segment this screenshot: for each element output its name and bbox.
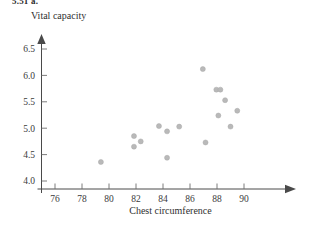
x-tick-label: 86 — [185, 194, 195, 204]
scatter-plot-figure: 5.51 a. Vital capacity 7678808284868890 … — [0, 0, 309, 226]
data-point — [235, 108, 240, 113]
plot-area: 7678808284868890 4.04.55.05.56.06.5 — [0, 0, 309, 226]
y-axis-arrowhead — [37, 34, 45, 44]
y-tick-label: 5.5 — [23, 97, 35, 107]
data-point — [218, 87, 223, 92]
y-tick-label: 4.5 — [23, 150, 35, 160]
data-point — [156, 124, 161, 129]
data-point — [228, 124, 233, 129]
data-point — [131, 134, 136, 139]
y-tick-label: 6.5 — [23, 44, 35, 54]
x-tick-label: 82 — [131, 194, 141, 204]
data-point — [138, 139, 143, 144]
y-tick-label: 6.0 — [23, 71, 35, 81]
y-tick-label: 4.0 — [23, 176, 35, 186]
data-point — [98, 159, 103, 164]
y-tick-group: 4.04.55.05.56.06.5 — [23, 44, 47, 186]
x-axis-title: Chest circumference — [129, 205, 211, 216]
x-tick-label: 90 — [239, 194, 249, 204]
x-axis-arrowhead — [285, 185, 296, 193]
x-tick-group: 7678808284868890 — [50, 184, 249, 204]
data-point — [165, 155, 170, 160]
data-point — [131, 144, 136, 149]
data-point — [177, 124, 182, 129]
x-tick-label: 88 — [212, 194, 222, 204]
x-tick-label: 84 — [158, 194, 168, 204]
x-tick-label: 76 — [50, 194, 60, 204]
data-point — [216, 113, 221, 118]
x-axis-title-wrap: Chest circumference — [0, 205, 309, 216]
data-point — [200, 67, 205, 72]
x-tick-label: 78 — [77, 194, 87, 204]
x-tick-label: 80 — [104, 194, 114, 204]
data-point — [203, 140, 208, 145]
data-point — [165, 129, 170, 134]
axes-group — [37, 34, 296, 193]
data-point — [223, 98, 228, 103]
data-points-group — [98, 67, 239, 165]
y-tick-label: 5.0 — [23, 124, 35, 134]
